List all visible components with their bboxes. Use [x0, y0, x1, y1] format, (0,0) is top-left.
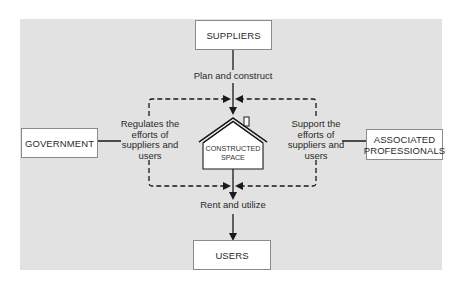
regulates-top-dashed [149, 99, 227, 116]
associated-professionals-label-line2: PROFESSIONALS [364, 145, 446, 156]
government-label: GOVERNMENT [25, 138, 94, 149]
constructed-space-label: CONSTRUCTED SPACE [203, 145, 263, 162]
support-label: Support the efforts of suppliers and use… [285, 119, 347, 161]
users-label: USERS [215, 250, 248, 261]
plan-construct-label: Plan and construct [183, 71, 283, 82]
associated-professionals-node: ASSOCIATED PROFESSIONALS [366, 129, 443, 160]
constructed-space-line2: SPACE [203, 154, 263, 163]
rent-utilize-label: Rent and utilize [183, 200, 283, 211]
users-node: USERS [193, 240, 271, 270]
regulates-line3: suppliers and [119, 140, 181, 151]
support-top-dashed [239, 99, 316, 116]
suppliers-label: SUPPLIERS [206, 30, 260, 41]
associated-professionals-label-line1: ASSOCIATED [374, 134, 436, 145]
suppliers-node: SUPPLIERS [195, 20, 272, 50]
support-line1: Support the [285, 119, 347, 130]
regulates-line1: Regulates the [119, 119, 181, 130]
regulates-line4: users [119, 151, 181, 162]
support-line3: suppliers and [285, 140, 347, 151]
regulates-label: Regulates the efforts of suppliers and u… [119, 119, 181, 161]
support-line4: users [285, 151, 347, 162]
government-node: GOVERNMENT [21, 128, 98, 158]
